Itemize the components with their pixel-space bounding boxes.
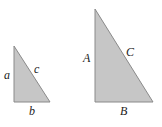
small-triangle [14,46,50,102]
triangles-svg [0,0,162,127]
label-small-c: c [34,63,39,75]
label-small-a: a [4,69,10,81]
similar-triangles-diagram: a c b A C B [0,0,162,127]
large-triangle [95,9,153,102]
label-small-b: b [29,105,35,117]
label-large-A: A [83,52,90,64]
label-large-B: B [120,105,127,117]
label-large-C: C [126,46,134,58]
